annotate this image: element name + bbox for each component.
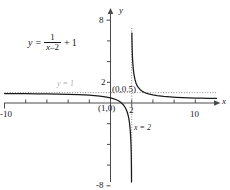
y-axis-label: y xyxy=(119,6,123,15)
function-equation: y = 1 x–2 + 1 xyxy=(28,33,77,53)
plot-canvas xyxy=(0,0,230,190)
x-tick-label-min: -10 xyxy=(0,110,12,119)
fraction-denominator: x–2 xyxy=(44,43,61,52)
fraction-numerator: 1 xyxy=(47,33,58,42)
curve-right-branch xyxy=(132,33,217,98)
equation-lhs: y xyxy=(28,37,32,48)
function-graph-figure: y = 1 x–2 + 1 y x -10 10 8 -8 2 2 (0,0.5… xyxy=(0,0,230,190)
y-tick-label-2: 2 xyxy=(101,78,106,87)
vertical-asymptote-label: x = 2 xyxy=(134,124,151,132)
x-tick-label-2: 2 xyxy=(129,106,134,115)
equation-plus: + xyxy=(64,37,70,48)
x-intercept-label: (1,0) xyxy=(98,104,115,113)
y-tick-label-min: -8 xyxy=(96,181,104,190)
x-tick-label-max: 10 xyxy=(190,110,199,119)
horizontal-asymptote-label: y = 1 xyxy=(57,80,74,88)
equation-fraction: 1 x–2 xyxy=(44,33,61,53)
y-axis-arrow xyxy=(108,8,114,14)
equation-constant: 1 xyxy=(72,37,77,48)
equation-equals: = xyxy=(34,37,42,48)
denominator-number: 2 xyxy=(55,42,60,52)
x-axis-arrow xyxy=(214,100,221,106)
x-axis-label: x xyxy=(222,97,226,106)
y-tick-label-max: 8 xyxy=(99,16,104,25)
y-intercept-label: (0,0.5) xyxy=(112,85,136,94)
